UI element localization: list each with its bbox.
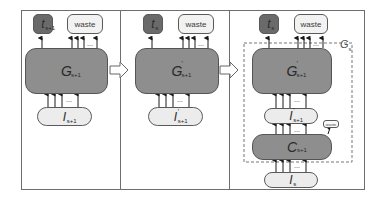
node-subscript: s+1 [297, 72, 307, 78]
node-prime: ' [293, 107, 294, 114]
node-subscript: s+1 [182, 72, 192, 78]
node-subscript: s+1 [297, 147, 307, 153]
ellipsis: ... [294, 96, 300, 103]
group-subscript: s [349, 46, 352, 52]
waste-label: waste [301, 20, 322, 29]
node-prime: ' [178, 108, 179, 115]
g-prime-node: G's+1 [252, 48, 332, 94]
ellipsis: ... [294, 162, 300, 169]
input-prime-node: I's+1 [264, 108, 318, 124]
node-label: I [289, 173, 292, 187]
node-label: C [287, 139, 297, 155]
ellipsis: ... [87, 40, 93, 47]
input-node: Is [264, 172, 318, 188]
ellipsis: ... [177, 96, 183, 103]
waste-node: waste [294, 14, 328, 34]
waste-label: waste [75, 20, 96, 29]
ellipsis: ... [294, 126, 300, 133]
target-node: ts+1 [33, 14, 53, 34]
node-prime: ' [182, 60, 183, 67]
ellipsis: ... [198, 40, 204, 47]
node-subscript: s+1 [67, 118, 77, 124]
input-node: Is+1 [37, 107, 92, 126]
c-node: Cs+1 [252, 134, 332, 160]
node-subscript: s [155, 25, 158, 31]
group-label: G [340, 38, 349, 50]
node-label: I [289, 109, 292, 123]
waste-node: waste [67, 14, 103, 34]
waste-node: waste [178, 14, 214, 34]
side-waste-node: waste [323, 120, 339, 128]
node-label: t [267, 17, 270, 31]
waste-label: waste [326, 122, 336, 127]
node-subscript: s+1 [71, 72, 81, 78]
g-prime-node: G's+1 [135, 48, 219, 94]
g-node: Gs+1 [25, 48, 108, 94]
node-label: t [41, 17, 44, 31]
node-prime: ' [297, 60, 298, 67]
node-subscript: s+1 [178, 118, 188, 124]
node-subscript: s+1 [293, 117, 303, 123]
transition-arrow-1 [110, 62, 128, 78]
target-node: ts [143, 14, 163, 34]
target-node: ts [259, 14, 279, 34]
node-label: I [174, 110, 177, 124]
ellipsis: ... [66, 96, 72, 103]
ellipsis: ... [313, 40, 319, 47]
input-prime-node: I's+1 [148, 107, 203, 126]
node-label: I [63, 110, 66, 124]
group-label-gs: Gs [340, 38, 352, 50]
transition-arrow-2 [220, 62, 238, 78]
node-subscript: s [271, 25, 274, 31]
node-subscript: s [293, 181, 296, 187]
node-subscript: s+1 [45, 25, 55, 31]
node-label: t [151, 17, 154, 31]
waste-label: waste [186, 20, 207, 29]
